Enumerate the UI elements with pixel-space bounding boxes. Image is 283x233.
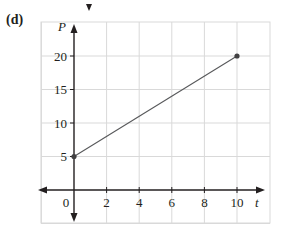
data-line <box>74 56 237 157</box>
y-tick-label: 10 <box>54 116 67 131</box>
top-arrow-icon <box>86 4 92 11</box>
y-tick-label: 15 <box>54 82 67 97</box>
y-ticks: 5101520 <box>54 49 74 165</box>
y-tick-label: 5 <box>61 149 68 164</box>
data-point <box>71 154 76 159</box>
data-point <box>234 53 239 58</box>
x-axis-arrow-left-icon <box>38 187 47 194</box>
x-tick-label: 4 <box>136 195 143 210</box>
x-tick-label: 8 <box>201 195 208 210</box>
x-tick-label: 6 <box>169 195 176 210</box>
line-chart: 0246810 5101520 t P <box>0 0 283 233</box>
x-tick-label: 0 <box>63 195 70 210</box>
x-tick-label: 2 <box>103 195 110 210</box>
y-tick-label: 20 <box>54 49 67 64</box>
x-tick-label: 10 <box>231 195 244 210</box>
y-axis-arrow-down-icon <box>71 213 78 222</box>
x-axis-label: t <box>255 195 259 210</box>
grid <box>41 22 270 224</box>
data-series <box>71 53 239 159</box>
y-axis-label: P <box>57 19 66 34</box>
x-axis-arrow-right-icon <box>256 187 265 194</box>
y-axis-arrow-up-icon <box>71 24 78 33</box>
